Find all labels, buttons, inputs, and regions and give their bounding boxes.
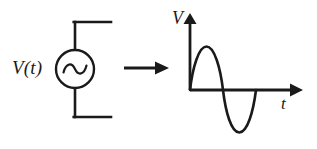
x-axis-label: t xyxy=(281,95,286,112)
diagram-canvas: V(t) V t xyxy=(0,0,317,149)
source-voltage-label: V(t) xyxy=(12,58,42,77)
x-axis-arrowhead-icon xyxy=(290,84,303,97)
ac-source-circuit xyxy=(56,22,111,117)
y-axis-label: V xyxy=(172,9,183,27)
diagram-svg xyxy=(0,0,317,149)
y-axis-arrowhead-icon xyxy=(184,13,197,24)
transform-arrowhead-icon xyxy=(155,62,169,75)
waveform-plot xyxy=(184,13,304,133)
transform-arrow-icon xyxy=(124,62,169,75)
